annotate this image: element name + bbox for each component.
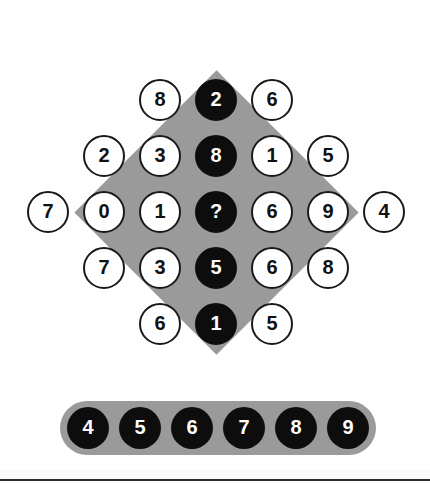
puzzle-stage: 82623815701?69473568615 456789 (0, 0, 430, 483)
missing-cell[interactable]: ? (195, 191, 237, 233)
grid-cell: 6 (251, 247, 293, 289)
grid-cell: 6 (251, 79, 293, 121)
grid-cell: 1 (195, 303, 237, 345)
grid-cell-value: 6 (266, 257, 277, 277)
grid-cell-value: 1 (210, 313, 221, 333)
answer-option-value: 9 (342, 417, 353, 437)
answer-option-value: 8 (290, 417, 301, 437)
page-edge-soft (0, 470, 430, 479)
grid-cell-value: 1 (266, 145, 277, 165)
grid-cell: 2 (83, 135, 125, 177)
grid-cell-value: 4 (378, 201, 389, 221)
grid-cell: 5 (195, 247, 237, 289)
answer-tray: 456789 (60, 401, 376, 455)
grid-cell: 6 (139, 303, 181, 345)
answer-option-value: 4 (82, 417, 93, 437)
grid-cell: 7 (83, 247, 125, 289)
answer-option[interactable]: 7 (223, 407, 265, 449)
answer-option[interactable]: 9 (327, 407, 369, 449)
grid-cell-value: 9 (322, 201, 333, 221)
grid-cell: 8 (139, 79, 181, 121)
grid-cell-value: 5 (210, 257, 221, 277)
answer-option-value: 7 (238, 417, 249, 437)
grid-cell: 5 (307, 135, 349, 177)
grid-cell-value: 2 (98, 145, 109, 165)
grid-cell-value: 1 (154, 201, 165, 221)
answer-option[interactable]: 8 (275, 407, 317, 449)
grid-cell-value: 7 (42, 201, 53, 221)
grid-cell-value: 0 (98, 201, 109, 221)
answer-option[interactable]: 4 (67, 407, 109, 449)
grid-cell: 2 (195, 79, 237, 121)
grid-cell: 4 (363, 191, 405, 233)
grid-cell-value: 6 (266, 201, 277, 221)
answer-option-value: 6 (186, 417, 197, 437)
page-bottom-rule (0, 479, 430, 481)
grid-cell: 0 (83, 191, 125, 233)
number-grid: 82623815701?69473568615 (0, 0, 430, 400)
grid-cell-value: 6 (154, 313, 165, 333)
grid-cell: 6 (251, 191, 293, 233)
answer-option[interactable]: 5 (119, 407, 161, 449)
grid-cell-value: 3 (154, 257, 165, 277)
grid-cell-value: 8 (154, 89, 165, 109)
grid-cell: 9 (307, 191, 349, 233)
grid-cell: 3 (139, 135, 181, 177)
grid-cell: 1 (139, 191, 181, 233)
grid-cell: 1 (251, 135, 293, 177)
grid-cell: 3 (139, 247, 181, 289)
grid-cell-value: 5 (322, 145, 333, 165)
grid-cell: 5 (251, 303, 293, 345)
grid-cell: 7 (27, 191, 69, 233)
grid-cell: 8 (307, 247, 349, 289)
grid-cell-value: ? (210, 201, 222, 221)
grid-cell-value: 7 (98, 257, 109, 277)
grid-cell-value: 3 (154, 145, 165, 165)
grid-cell-value: 8 (322, 257, 333, 277)
answer-option[interactable]: 6 (171, 407, 213, 449)
answer-option-value: 5 (134, 417, 145, 437)
grid-cell-value: 2 (210, 89, 221, 109)
grid-cell-value: 5 (266, 313, 277, 333)
grid-cell: 8 (195, 135, 237, 177)
grid-cell-value: 8 (210, 145, 221, 165)
grid-cell-value: 6 (266, 89, 277, 109)
